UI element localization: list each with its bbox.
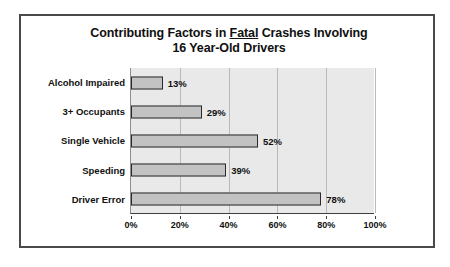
bar[interactable] <box>131 134 258 147</box>
chart-title-line1-pre: Contributing Factors in <box>90 26 229 40</box>
bar[interactable] <box>131 105 202 118</box>
bar-row[interactable]: 78% <box>131 185 374 214</box>
category-label: Speeding <box>0 156 131 185</box>
bar[interactable] <box>131 193 321 206</box>
category-label: Alcohol Impaired <box>0 68 131 97</box>
x-tickmark <box>180 216 181 219</box>
gridline <box>375 68 376 213</box>
chart-title-line2: 16 Year-Old Drivers <box>21 41 437 56</box>
x-tick-label: 100% <box>363 220 386 230</box>
chart-title-line1-post: Crashes Involving <box>258 26 367 40</box>
bar-value-label: 29% <box>207 106 226 117</box>
x-tickmark <box>131 216 132 219</box>
chart-title-emphasis: Fatal <box>230 26 259 40</box>
category-label: Driver Error <box>0 185 131 214</box>
bar-row[interactable]: 52% <box>131 126 374 155</box>
bar[interactable] <box>131 164 226 177</box>
bar[interactable] <box>131 76 163 89</box>
x-tick-label: 40% <box>220 220 238 230</box>
category-label: 3+ Occupants <box>0 97 131 126</box>
bar-value-label: 52% <box>263 135 282 146</box>
bar-value-label: 78% <box>326 194 345 205</box>
bar-row[interactable]: 39% <box>131 156 374 185</box>
bar-row[interactable]: 13% <box>131 68 374 97</box>
category-axis-labels: Alcohol Impaired3+ OccupantsSingle Vehic… <box>0 68 131 214</box>
x-tickmark <box>277 216 278 219</box>
value-axis-ticks: 0%20%40%60%80%100% <box>131 216 375 232</box>
x-tick-label: 60% <box>268 220 286 230</box>
x-tickmark <box>229 216 230 219</box>
x-tickmark <box>326 216 327 219</box>
bar-row[interactable]: 29% <box>131 97 374 126</box>
bar-value-label: 39% <box>231 165 250 176</box>
category-label: Single Vehicle <box>0 126 131 155</box>
x-tickmark <box>375 216 376 219</box>
x-tick-label: 80% <box>317 220 335 230</box>
chart-frame: Contributing Factors in Fatal Crashes In… <box>19 14 435 248</box>
plot-area: Alcohol Impaired3+ OccupantsSingle Vehic… <box>130 68 374 214</box>
bar-value-label: 13% <box>168 77 187 88</box>
chart-title: Contributing Factors in Fatal Crashes In… <box>21 26 437 56</box>
x-tick-label: 0% <box>124 220 137 230</box>
x-tick-label: 20% <box>171 220 189 230</box>
